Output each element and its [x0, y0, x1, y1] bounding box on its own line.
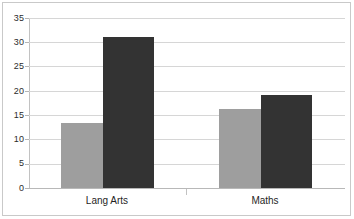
- plot-area: [29, 18, 345, 188]
- bar-maths-series-1[interactable]: [219, 109, 261, 188]
- bars-layer: [29, 18, 345, 188]
- x-axis-category-labels: Lang Arts Maths: [0, 194, 354, 210]
- y-axis-tick-labels: 35 30 25 20 15 10 5 0: [0, 0, 24, 219]
- y-tick-label-30: 30: [0, 37, 24, 47]
- y-tick-label-20: 20: [0, 86, 24, 96]
- bar-chart-figure: 35 30 25 20 15 10 5 0: [0, 0, 354, 219]
- y-tick-label-0: 0: [0, 183, 24, 193]
- x-label-maths: Maths: [205, 194, 325, 207]
- bar-maths-series-2[interactable]: [261, 95, 312, 188]
- y-tick-label-35: 35: [0, 13, 24, 23]
- bar-lang-arts-series-2[interactable]: [103, 37, 154, 188]
- x-label-lang-arts: Lang Arts: [47, 194, 167, 207]
- gridline-0: [29, 188, 345, 189]
- bar-lang-arts-series-1[interactable]: [61, 123, 103, 188]
- y-tick-label-15: 15: [0, 110, 24, 120]
- y-tick-label-25: 25: [0, 61, 24, 71]
- y-tick-label-5: 5: [0, 158, 24, 168]
- y-tick-label-10: 10: [0, 134, 24, 144]
